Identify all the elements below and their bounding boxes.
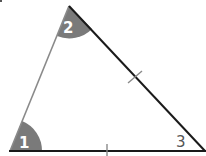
triangle-diagram: 2 1 3: [0, 0, 206, 156]
angle-label-1: 1: [19, 134, 29, 152]
side-right: [69, 6, 205, 151]
angle-label-3: 3: [176, 133, 186, 151]
angle-label-2: 2: [63, 19, 73, 37]
side-left: [10, 6, 69, 151]
corner-fragment: [0, 0, 2, 2]
